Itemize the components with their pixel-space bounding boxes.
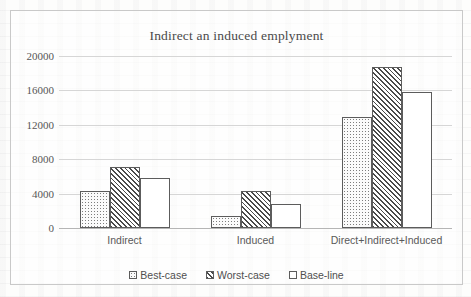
chart-title: Indirect an induced emplyment	[11, 28, 462, 44]
gridline-0: 0	[59, 228, 452, 229]
x-axis-label: Direct+Indirect+Induced	[321, 234, 452, 246]
y-axis-tick-label: 4000	[32, 188, 54, 200]
x-axis-label: Induced	[190, 234, 321, 246]
plot-area: 040008000120001600020000	[59, 56, 452, 228]
legend-label: Worst-case	[217, 269, 270, 281]
bar-group	[321, 56, 452, 228]
bar[interactable]	[110, 167, 140, 228]
bar[interactable]	[140, 178, 170, 228]
bar-group	[59, 56, 190, 228]
bar[interactable]	[271, 204, 301, 228]
legend-item-worst-case[interactable]: Worst-case	[206, 269, 270, 281]
y-axis-tick-label: 20000	[27, 50, 55, 62]
bar[interactable]	[241, 191, 271, 228]
y-axis-tick-label: 16000	[27, 84, 55, 96]
legend-label: Best-case	[140, 269, 187, 281]
legend-item-base-line[interactable]: Base-line	[289, 269, 344, 281]
legend-swatch-icon	[129, 271, 137, 279]
bar[interactable]	[80, 191, 110, 228]
x-axis-label: Indirect	[59, 234, 190, 246]
bar-group	[190, 56, 321, 228]
x-axis-labels: IndirectInducedDirect+Indirect+Induced	[59, 234, 452, 246]
bar[interactable]	[372, 67, 402, 228]
bar-groups	[59, 56, 452, 228]
y-axis-tick-label: 12000	[27, 119, 55, 131]
bar[interactable]	[211, 216, 241, 228]
y-axis-tick-label: 8000	[32, 153, 54, 165]
bar[interactable]	[342, 117, 372, 228]
chart-container: Indirect an induced emplyment 0400080001…	[10, 10, 463, 285]
bar[interactable]	[402, 92, 432, 228]
y-axis-tick-label: 0	[49, 222, 55, 234]
legend-swatch-icon	[289, 271, 297, 279]
legend-swatch-icon	[206, 271, 214, 279]
legend-item-best-case[interactable]: Best-case	[129, 269, 187, 281]
chart-legend: Best-caseWorst-caseBase-line	[11, 269, 462, 281]
legend-label: Base-line	[300, 269, 344, 281]
